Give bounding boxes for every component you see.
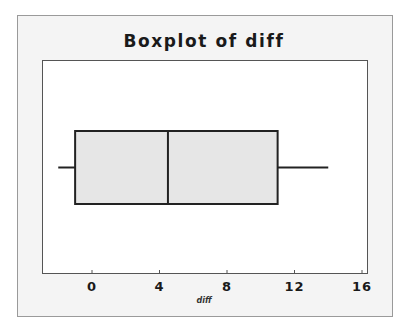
x-tick-label: 12	[284, 279, 304, 294]
x-tick-label: 16	[352, 279, 372, 294]
x-tick-label: 8	[222, 279, 232, 294]
x-axis-label: diff	[196, 296, 211, 305]
boxplot-series-diff	[58, 131, 328, 204]
x-tick-label: 4	[154, 279, 164, 294]
boxplot-graphic	[0, 0, 408, 336]
interquartile-box	[75, 131, 278, 204]
x-axis-ticks	[92, 270, 362, 273]
x-tick-label: 0	[87, 279, 97, 294]
